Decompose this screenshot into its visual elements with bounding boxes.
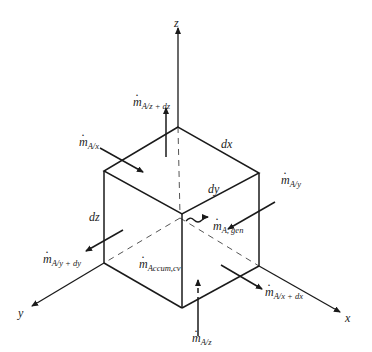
control-volume-diagram [0,0,372,352]
y-axis [32,263,104,306]
flow-label-in-x: mA/x [79,136,99,148]
flow-label-in-z: mA/z [192,332,212,344]
flow-label-out-z: mA/z + dz [133,96,170,108]
cube-edges [104,127,259,308]
y-axis-label: y [18,307,23,319]
dx-label: dx [221,138,232,150]
dy-label: dy [208,183,219,195]
dz-label: dz [89,211,100,223]
x-axis-label: x [345,312,350,324]
flow-label-out-y: mA/y + dy [43,253,81,265]
z-axis-label: z [174,17,179,29]
flow-out-x-arrow [221,265,262,289]
flow-label-generation: mA, gen [213,220,243,232]
flow-label-accumulation: mAccum,cv [139,258,180,270]
flow-label-in-y: mA/y [281,174,301,186]
flow-label-out-x: mA/x + dx [265,286,303,298]
generation-squiggle [186,217,208,222]
